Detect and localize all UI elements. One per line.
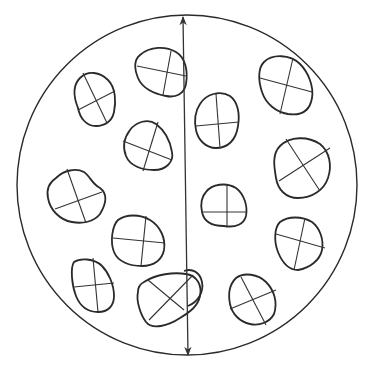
particle-measurement-line [294, 218, 305, 270]
particle [72, 258, 114, 312]
particle-measurement-line [279, 148, 330, 181]
particle-measurement-line [137, 66, 186, 76]
particle-measurement-diagram [0, 0, 372, 379]
particle [275, 218, 325, 271]
particle [137, 273, 200, 326]
particle [229, 275, 276, 325]
particle-group [47, 48, 330, 327]
particle-measurement-line [113, 238, 165, 243]
particle-measurement-line [216, 94, 220, 148]
particle-outline [124, 121, 172, 170]
particle-outline [72, 259, 114, 312]
particle-measurement-line [78, 91, 115, 110]
particle-measurement-line [196, 122, 239, 126]
particle [274, 138, 330, 198]
particle-measurement-line [83, 73, 107, 123]
particle-measurement-line [74, 283, 114, 287]
particle-outline [274, 138, 330, 198]
particle-measurement-line [67, 169, 86, 223]
particle [123, 121, 172, 171]
particle [75, 73, 116, 126]
particle-measurement-line [230, 290, 276, 309]
particle-measurement-line [148, 280, 184, 310]
particle-outline [201, 185, 246, 227]
particle-measurement-line [55, 192, 102, 209]
particle [259, 56, 312, 114]
particle-outline [275, 218, 322, 271]
particle [47, 169, 105, 223]
particle [112, 216, 165, 267]
particle-outline [75, 73, 116, 126]
particle-measurement-line [143, 122, 158, 171]
particle-outline [135, 48, 186, 97]
particle-measurement-line [241, 277, 266, 325]
particle [201, 184, 247, 227]
diagram-canvas [0, 0, 372, 379]
particle [135, 48, 186, 97]
particle [195, 93, 239, 148]
